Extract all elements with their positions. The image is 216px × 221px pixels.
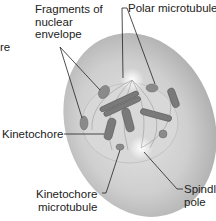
label-polar-microtubules: Polar microtubules xyxy=(128,2,216,15)
label-spindle-pole: Spindle pole xyxy=(184,183,216,208)
label-line: envelope xyxy=(35,28,103,41)
label-kinetochore-microtubule: Kinetochore microtubule xyxy=(36,188,97,213)
label-line: nuclear xyxy=(35,16,103,29)
label-line: microtubule xyxy=(36,201,97,214)
truncated-label: re xyxy=(0,41,10,54)
label-fragments-of-nuclear-envelope: Fragments of nuclear envelope xyxy=(35,3,103,41)
label-line: Spindle xyxy=(184,183,216,196)
label-kinetochore: Kinetochore xyxy=(2,128,63,141)
label-line: pole xyxy=(184,196,216,209)
label-line: Kinetochore xyxy=(36,188,97,201)
label-line: Fragments of xyxy=(35,3,103,16)
